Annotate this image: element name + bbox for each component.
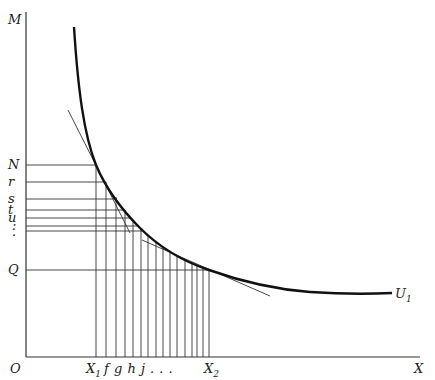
x-intermediate-labels: f g h j . . . [103,361,173,376]
y-tick-labels: Nrstu:Q· [7,157,20,277]
y-continuation-dots: · [12,228,16,243]
origin-label: O [10,361,21,376]
indifference-curve-diagram: M X O U1 Nrstu:Q· X1 f g h j . . . X2 [0,0,435,380]
horizontal-guide-lines [26,165,209,270]
y-tick-label: r [8,174,15,189]
curve-label: U1 [395,286,412,304]
x2-label: X2 [203,361,219,379]
x1-label: X1 [85,361,101,379]
y-tick-label: N [7,157,20,172]
indifference-curve-u1 [74,27,392,294]
y-axis-label: M [7,12,22,27]
y-tick-label: Q [8,262,19,277]
x-axis-label: X [413,361,424,376]
